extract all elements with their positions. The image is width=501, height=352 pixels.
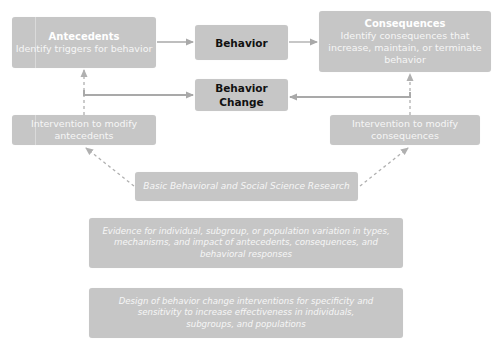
intervention-consequences-box: Intervention to modify consequences <box>330 115 480 145</box>
evidence-line3: behavioral responses <box>196 249 296 261</box>
basic-research-box: Basic Behavioral and Social Science Rese… <box>135 172 358 201</box>
intervention-antecedents-box: Intervention to modify antecedents <box>12 115 156 145</box>
antecedents-title: Antecedents <box>49 31 120 43</box>
design-line1: Design of behavior change interventions … <box>115 296 378 308</box>
arrow-consequences-intervention-to-behavior-change <box>290 92 410 97</box>
intervention-consequences-line2: consequences <box>371 130 439 142</box>
design-box: Design of behavior change interventions … <box>89 288 403 338</box>
consequences-title: Consequences <box>365 18 446 30</box>
behavior-change-title-line1: Behavior <box>215 81 268 95</box>
arrow-antecedents-intervention-to-behavior-change <box>84 90 193 95</box>
dashed-arrow-research-to-antecedents-intervention <box>86 148 134 186</box>
behavior-title: Behavior <box>215 36 268 50</box>
design-line2: sensitivity to increase effectiveness in… <box>134 307 359 319</box>
basic-research-text: Basic Behavioral and Social Science Rese… <box>139 181 354 193</box>
consequences-box: Consequences Identify consequences that … <box>319 11 491 72</box>
evidence-box: Evidence for individual, subgroup, or po… <box>89 218 403 268</box>
evidence-line1: Evidence for individual, subgroup, or po… <box>98 226 393 238</box>
behavior-change-title-line2: Change <box>219 95 263 109</box>
behavior-box: Behavior <box>195 25 288 60</box>
behavior-change-diagram: Antecedents Identify triggers for behavi… <box>0 0 501 352</box>
design-line3: subgroups, and populations <box>182 319 310 331</box>
dashed-arrow-research-to-consequences-intervention <box>360 148 408 186</box>
behavior-change-box: Behavior Change <box>195 79 288 111</box>
antecedents-box: Antecedents Identify triggers for behavi… <box>12 17 156 68</box>
intervention-consequences-line1: Intervention to modify <box>352 118 458 130</box>
intervention-antecedents-line1: Intervention to modify <box>31 118 137 130</box>
intervention-antecedents-line2: antecedents <box>54 130 113 142</box>
antecedents-subtitle: Identify triggers for behavior <box>16 43 153 55</box>
consequences-subtitle: Identify consequences that increase, mai… <box>327 30 483 66</box>
evidence-line2: mechanisms, and impact of antecedents, c… <box>110 237 382 249</box>
